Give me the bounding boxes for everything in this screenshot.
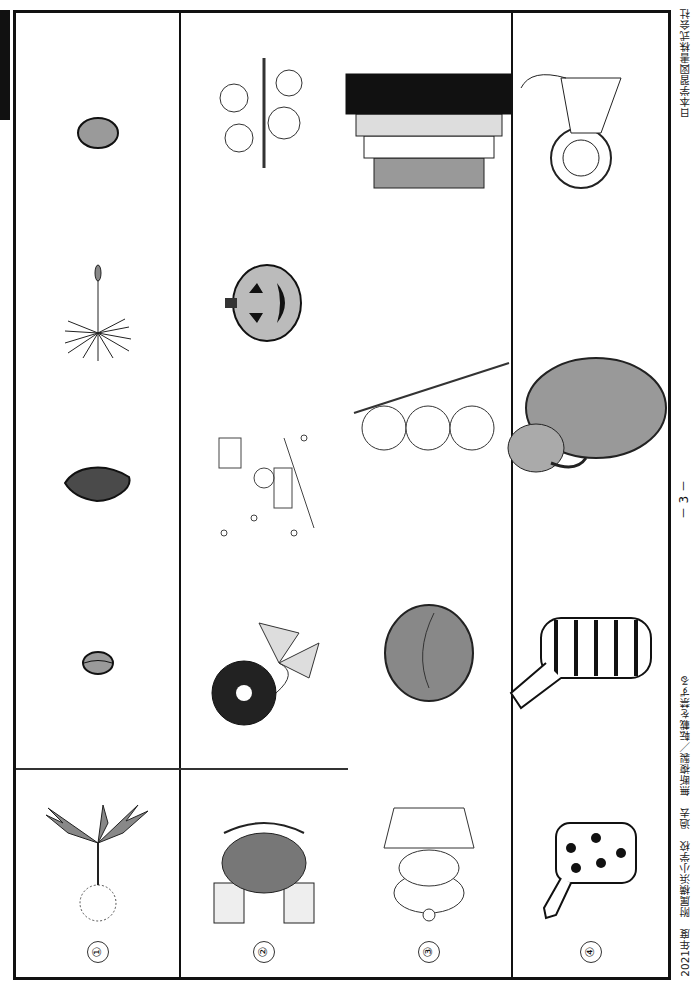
choice-dandelion-fluff[interactable]: [16, 243, 179, 383]
footer-copyright: 2021年度 附属横浜小学校 過去 無断複製／転載を禁ずる: [677, 675, 692, 977]
question-1-row: ①: [16, 13, 179, 977]
choice-cherry-blossom[interactable]: [181, 33, 346, 193]
reference-giraffe: [513, 773, 668, 943]
choice-morning-glory[interactable]: [181, 593, 346, 753]
reference-divider: [16, 768, 348, 770]
choice-kashiwa-mochi[interactable]: [346, 573, 511, 733]
choice-jubako[interactable]: [346, 33, 511, 233]
choice-jack-o-lantern[interactable]: [181, 233, 346, 373]
choice-seed-dark-leaf[interactable]: [16, 413, 179, 553]
choice-elephant[interactable]: [513, 303, 668, 523]
question-3-row: ③: [346, 13, 511, 977]
choice-seed-round[interactable]: [16, 73, 179, 193]
title-fragment: [0, 10, 10, 120]
choice-dango[interactable]: [346, 313, 511, 513]
question-number-4: ④: [580, 941, 602, 963]
page-number: － 3 －: [675, 480, 692, 519]
question-number-3: ③: [418, 941, 440, 963]
reference-kabuto-helmet: [181, 793, 346, 943]
worksheet-frame: ①: [13, 10, 671, 980]
footer-publisher: 日本学習図書株式会社: [677, 8, 692, 118]
question-number-2: ②: [253, 941, 275, 963]
question-number-1: ①: [87, 941, 109, 963]
choice-seed-small-oval[interactable]: [16, 593, 179, 733]
choice-lion[interactable]: [513, 33, 668, 233]
choice-snow-skiing[interactable]: [181, 403, 346, 563]
reference-dandelion: [16, 793, 179, 943]
reference-kagami-mochi: [346, 783, 511, 953]
question-4-row: ④: [511, 13, 668, 977]
question-2-row: ②: [179, 13, 346, 977]
choice-zebra[interactable]: [513, 553, 668, 763]
